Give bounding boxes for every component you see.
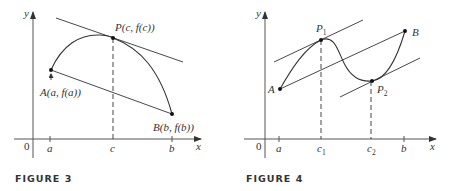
origin-label: 0 <box>24 140 30 152</box>
x-axis-label: x <box>429 140 435 152</box>
label-point-p1: P1 <box>315 22 327 37</box>
caption-figure-4: FIGURE 4 <box>246 173 303 184</box>
label-point-b: B <box>412 26 419 38</box>
y-axis-label: y <box>23 7 29 19</box>
tick-label-b: b <box>401 142 407 154</box>
point-a <box>49 68 53 72</box>
origin-label: 0 <box>256 140 262 152</box>
figure-3: y x 0 a c b P(c, f(c)) A(a, f(a)) B(b, f… <box>14 7 201 184</box>
point-p <box>111 36 115 40</box>
point-b <box>403 29 407 33</box>
tick-label-b: b <box>169 142 175 154</box>
tick-label-a: a <box>47 142 53 154</box>
caption-figure-3: FIGURE 3 <box>15 173 72 184</box>
point-a <box>278 87 282 91</box>
tick-label-c2: c2 <box>367 142 376 157</box>
mean-value-theorem-figures: y x 0 a c b P(c, f(c)) A(a, f(a)) B(b, f… <box>0 0 450 191</box>
x-axis-label: x <box>195 140 201 152</box>
label-point-a: A <box>267 83 275 95</box>
label-point-p: P(c, f(c)) <box>114 21 155 34</box>
label-point-a: A(a, f(a)) <box>39 86 81 99</box>
figure-4: y x 0 a c1 c2 b A B P1 P2 FIGURE 4 <box>244 7 436 184</box>
tick-label-a: a <box>276 142 282 154</box>
label-point-b: B(b, f(b)) <box>153 121 194 134</box>
point-p2 <box>370 79 374 83</box>
point-b <box>170 112 174 116</box>
y-axis-label: y <box>255 7 261 19</box>
curve-f <box>51 35 172 114</box>
tick-label-c: c <box>110 142 115 154</box>
point-p1 <box>319 38 323 42</box>
label-point-p2: P2 <box>376 83 388 98</box>
tick-label-c1: c1 <box>317 142 326 157</box>
